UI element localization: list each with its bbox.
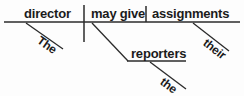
indirect-object-word: reporters xyxy=(131,47,186,60)
direct-object-word: assignments xyxy=(152,7,229,20)
indirect-object-slant-line xyxy=(92,23,128,61)
predicate-word: may give xyxy=(91,7,145,20)
sentence-diagram: director may give assignments reporters … xyxy=(0,0,244,96)
subject-word: director xyxy=(24,7,71,20)
